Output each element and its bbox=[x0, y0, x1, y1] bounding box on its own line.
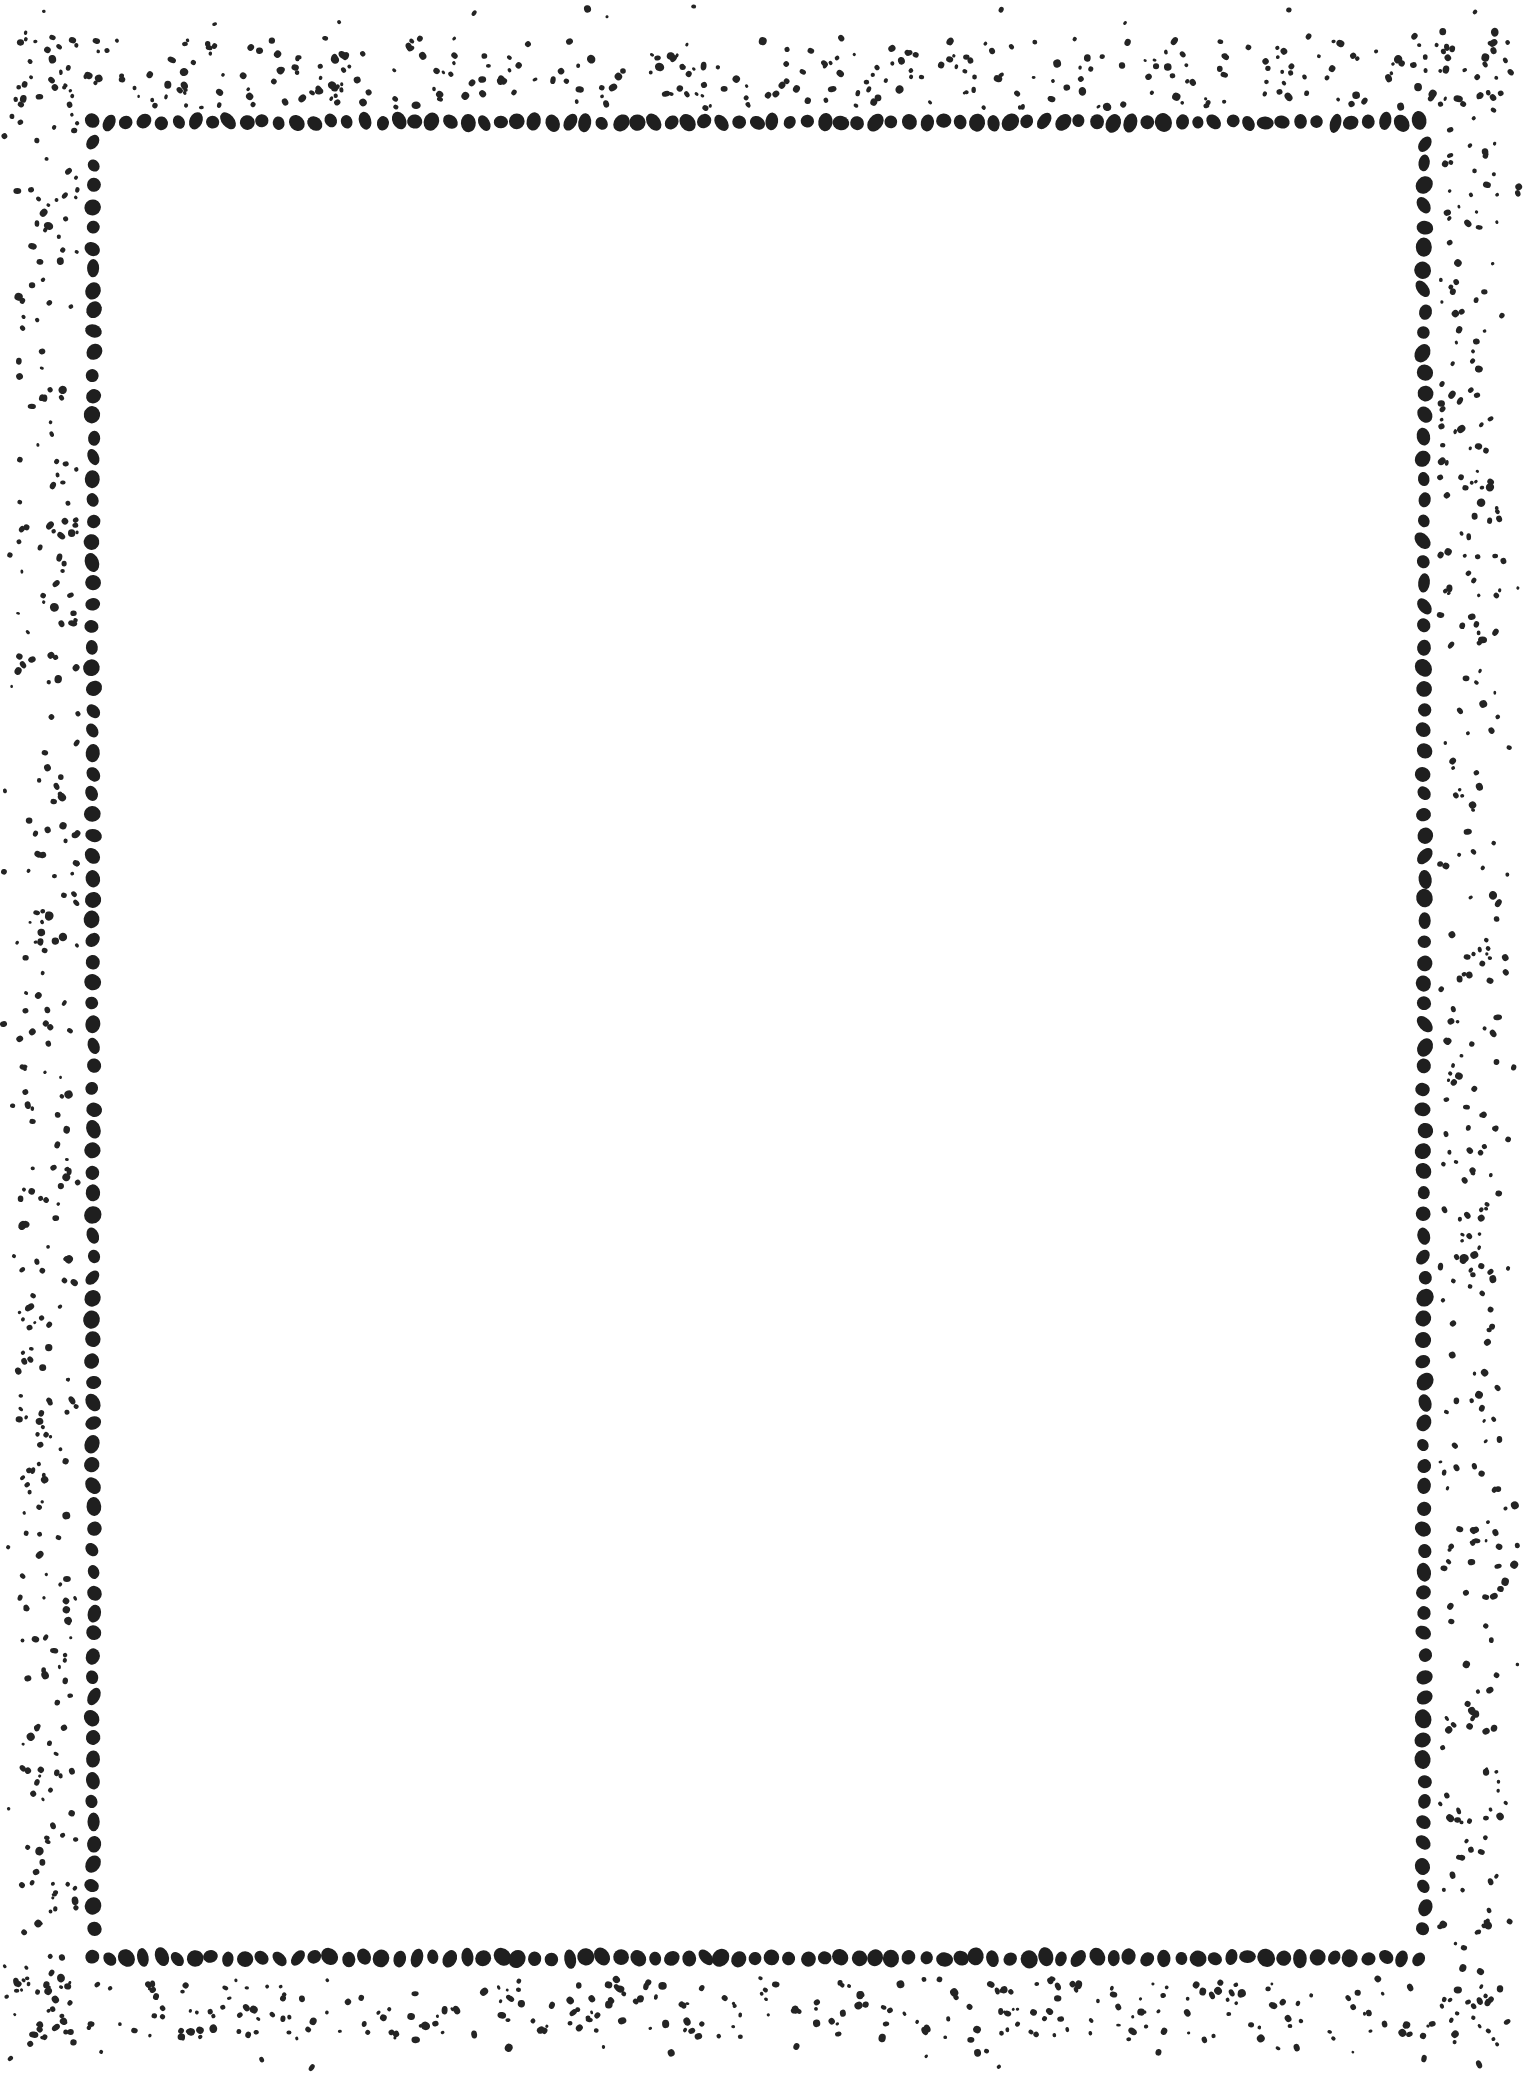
writing-area[interactable] bbox=[110, 140, 1410, 1940]
stationery-page bbox=[0, 0, 1524, 2074]
